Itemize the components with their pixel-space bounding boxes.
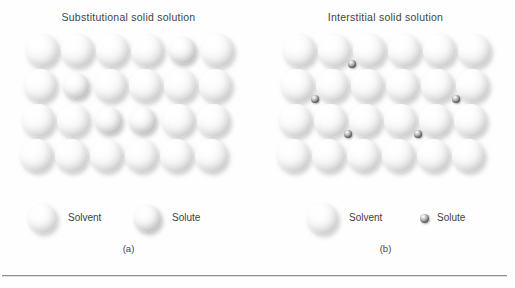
legend-label-solvent: Solvent xyxy=(68,212,101,223)
solvent-atom xyxy=(96,34,129,67)
bottom-divider-rule xyxy=(2,275,507,277)
lattice-interstitial xyxy=(257,32,514,177)
legend-item-solute: Solute xyxy=(134,200,244,234)
solute-atom-interstitial xyxy=(452,95,460,103)
medium-sphere-icon xyxy=(134,205,161,232)
solvent-atom xyxy=(279,104,312,137)
legend-label-solute: Solute xyxy=(172,212,200,223)
legend-label-solute: Solute xyxy=(437,212,465,223)
panel-substitutional: Substitutional solid solution xyxy=(0,0,257,262)
large-sphere-icon xyxy=(28,204,57,233)
solvent-atom xyxy=(316,69,349,102)
solute-atom-substitutional xyxy=(129,107,156,134)
solvent-atom xyxy=(201,34,234,67)
panel-title-substitutional: Substitutional solid solution xyxy=(0,11,257,23)
solvent-atom xyxy=(456,69,489,102)
solvent-atom xyxy=(419,104,452,137)
solvent-atom xyxy=(57,104,90,137)
solvent-atom xyxy=(22,104,55,137)
solute-atom-interstitial xyxy=(348,60,356,68)
solvent-atom xyxy=(55,139,88,172)
solvent-atom xyxy=(283,34,316,67)
solvent-atom xyxy=(318,34,351,67)
solvent-atom xyxy=(195,139,228,172)
solvent-atom xyxy=(199,69,232,102)
solvent-atom xyxy=(353,34,386,67)
solvent-atom xyxy=(125,139,158,172)
solvent-atom xyxy=(382,139,415,172)
panel-caption-a: (a) xyxy=(0,243,257,254)
solvent-atom xyxy=(129,69,162,102)
solvent-atom xyxy=(197,104,230,137)
legend-item-solvent: Solvent xyxy=(28,200,128,234)
solvent-atom xyxy=(164,69,197,102)
legend-item-solute: Solute xyxy=(420,200,510,234)
lattice-substitutional xyxy=(0,32,257,177)
solvent-atom xyxy=(388,34,421,67)
solvent-atom xyxy=(281,69,314,102)
solvent-atom xyxy=(452,139,485,172)
solvent-atom xyxy=(24,69,57,102)
solute-atom-interstitial xyxy=(414,130,422,138)
solvent-atom xyxy=(94,69,127,102)
solvent-atom xyxy=(160,139,193,172)
solvent-atom xyxy=(90,139,123,172)
legend-item-solvent: Solvent xyxy=(307,200,407,234)
solvent-atom xyxy=(312,139,345,172)
panel-caption-b: (b) xyxy=(257,243,514,254)
panel-title-interstitial: Interstitial solid solution xyxy=(257,11,514,23)
solvent-atom xyxy=(20,139,53,172)
legend-interstitial: Solvent Solute xyxy=(257,200,514,240)
solute-atom-substitutional xyxy=(95,107,122,134)
solute-atom-substitutional xyxy=(63,73,89,99)
large-sphere-icon xyxy=(307,203,338,234)
solid-solution-figure: Substitutional solid solution xyxy=(0,0,515,288)
solute-atom-interstitial xyxy=(344,130,352,138)
solvent-atom xyxy=(417,139,450,172)
legend-substitutional: Solvent Solute xyxy=(0,200,257,240)
solvent-atom xyxy=(26,34,59,67)
solvent-atom xyxy=(314,104,347,137)
panel-interstitial: Interstitial solid solution xyxy=(257,0,514,262)
solvent-atom xyxy=(349,104,382,137)
solvent-atom xyxy=(131,34,164,67)
solvent-atom xyxy=(458,34,491,67)
solvent-atom xyxy=(347,139,380,172)
small-dark-sphere-icon xyxy=(420,214,429,223)
solvent-atom xyxy=(162,104,195,137)
solvent-atom xyxy=(277,139,310,172)
solvent-atom xyxy=(454,104,487,137)
solute-atom-substitutional xyxy=(169,37,196,64)
solute-atom-interstitial xyxy=(311,95,319,103)
solvent-atom xyxy=(384,104,417,137)
solvent-atom xyxy=(386,69,419,102)
legend-label-solvent: Solvent xyxy=(349,212,382,223)
solvent-atom xyxy=(421,69,454,102)
solvent-atom xyxy=(61,34,94,67)
solvent-atom xyxy=(351,69,384,102)
solvent-atom xyxy=(423,34,456,67)
